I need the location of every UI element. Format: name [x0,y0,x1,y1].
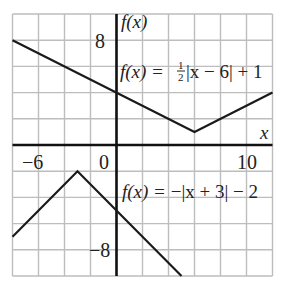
fn2-prefix: f(x) = [122,181,171,203]
fn1-frac-num: 1 [178,59,184,71]
x-tick-neg6: −6 [22,151,43,173]
svg-text:f(x) =: f(x) = [120,61,164,83]
function-graph: f(x) x 8 −8 −6 0 10 f(x) = 1 2 |x − 6| +… [0,0,286,286]
svg-text:f(x) = −|x + 3| − 2: f(x) = −|x + 3| − 2 [122,181,258,203]
function-label-top: f(x) = 1 2 |x − 6| + 1 [120,59,263,83]
fn2-rest: −|x + 3| − 2 [171,181,258,202]
function-label-bottom: f(x) = −|x + 3| − 2 [122,181,258,203]
x-tick-10: 10 [237,151,257,173]
y-tick-8: 8 [95,30,105,52]
fn1-prefix: f(x) = [120,61,164,83]
fn1-frac-den: 2 [178,71,184,83]
fn1-rest: |x − 6| + 1 [186,61,263,82]
y-tick-neg8: −8 [89,239,110,261]
x-axis-label: x [259,122,269,143]
x-tick-0: 0 [99,151,109,173]
y-axis-label: f(x) [121,11,147,33]
